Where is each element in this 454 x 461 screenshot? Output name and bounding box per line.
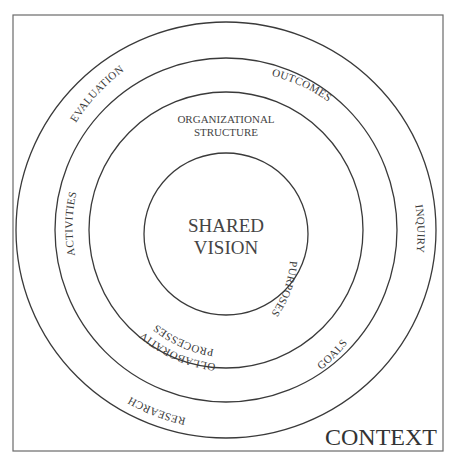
structure-label: STRUCTURE [194, 126, 258, 138]
svg-text:INQUIRY: INQUIRY [413, 204, 427, 254]
inquiry-label: INQUIRY [413, 204, 427, 254]
center-label-line1: SHARED [188, 215, 264, 236]
purposes-label: PURPOSES [269, 261, 300, 320]
svg-text:COLLABORATIVE: COLLABORATIVE [0, 0, 216, 374]
nested-circles-diagram: SHARED VISION ORGANIZATIONAL STRUCTURE E… [0, 0, 454, 461]
outcomes-label: OUTCOMES [271, 66, 334, 103]
center-label-line2: VISION [194, 237, 259, 258]
context-label: CONTEXT [325, 424, 437, 450]
activities-label: ACTIVITIES [62, 190, 78, 257]
svg-text:RESEARCH: RESEARCH [125, 395, 186, 428]
evaluation-label: EVALUATION [67, 63, 125, 125]
collaborative-label: COLLABORATIVE [0, 0, 216, 374]
research-label: RESEARCH [125, 395, 186, 428]
svg-text:EVALUATION: EVALUATION [67, 63, 125, 125]
organizational-label: ORGANIZATIONAL [177, 113, 274, 125]
svg-text:PURPOSES: PURPOSES [269, 261, 300, 320]
svg-text:ACTIVITIES: ACTIVITIES [62, 190, 78, 257]
svg-text:OUTCOMES: OUTCOMES [271, 66, 334, 103]
